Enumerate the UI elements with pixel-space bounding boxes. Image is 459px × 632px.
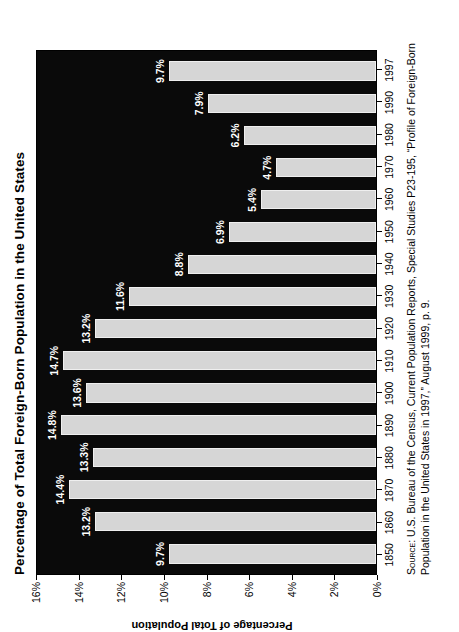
y-axis-tick-label: 10%: [158, 575, 170, 603]
bar[interactable]: [229, 222, 376, 241]
bar-slot[interactable]: 13.2%: [37, 313, 376, 345]
bar-slot[interactable]: 6.9%: [37, 216, 376, 248]
bar-slot[interactable]: 4.7%: [37, 152, 376, 184]
bar-slot[interactable]: 13.6%: [37, 377, 376, 409]
bar-value-label: 9.7%: [154, 542, 166, 566]
bar[interactable]: [208, 94, 376, 113]
bar[interactable]: [95, 319, 376, 338]
y-axis: Percentage of Total Population 0%2%4%6%8…: [36, 575, 377, 622]
bar-slot[interactable]: 6.2%: [37, 119, 376, 151]
bar-slot[interactable]: 14.8%: [37, 409, 376, 441]
bar-value-label: 13.2%: [80, 314, 92, 344]
bar-slot[interactable]: 13.3%: [37, 441, 376, 473]
x-axis-tick-label: 1930: [377, 280, 397, 312]
bar[interactable]: [276, 158, 376, 177]
x-axis-tick-label: 1870: [377, 474, 397, 506]
bar-slot[interactable]: 13.2%: [37, 506, 376, 538]
bar-value-label: 7.9%: [193, 91, 205, 115]
bar[interactable]: [86, 383, 376, 402]
chart-title: Percentage of Total Foreign-Born Populat…: [12, 15, 27, 575]
x-axis-tick-label: 1980: [377, 119, 397, 151]
x-axis-tick-label: 1920: [377, 313, 397, 345]
x-axis-tick-label: 1850: [377, 539, 397, 571]
bar[interactable]: [95, 512, 376, 531]
bar-value-label: 9.7%: [154, 59, 166, 83]
y-axis-tick-label: 16%: [30, 575, 42, 603]
bar-value-label: 6.2%: [229, 124, 241, 148]
x-axis-tick-label: 1900: [377, 377, 397, 409]
bar-value-label: 14.8%: [46, 410, 58, 440]
bar-value-label: 6.9%: [214, 220, 226, 244]
plot-area: 9.7%13.2%14.4%13.3%14.8%13.6%14.7%13.2%1…: [36, 50, 377, 575]
y-axis-tick: 14%: [73, 575, 85, 622]
source-note: Source: U.S. Bureau of the Census, Curre…: [404, 30, 432, 575]
y-axis-tick: 2%: [328, 575, 340, 622]
bar-value-label: 4.7%: [261, 156, 273, 180]
bar[interactable]: [129, 287, 376, 306]
x-axis-tick-label: 1860: [377, 506, 397, 538]
bar-value-label: 14.7%: [48, 346, 60, 376]
y-axis-tick: 6%: [243, 575, 255, 622]
bar-value-label: 13.2%: [80, 507, 92, 537]
bar-value-label: 14.4%: [54, 475, 66, 505]
x-axis-tick-label: 1970: [377, 151, 397, 183]
bar[interactable]: [244, 126, 376, 145]
bar[interactable]: [69, 480, 376, 499]
source-text: U.S. Bureau of the Census, Current Popul…: [405, 43, 431, 575]
bar-value-label: 5.4%: [246, 188, 258, 212]
bar-slot[interactable]: 5.4%: [37, 184, 376, 216]
x-axis-tick-label: 1880: [377, 442, 397, 474]
y-axis-tick: 0%: [371, 575, 383, 622]
bar-slot[interactable]: 11.6%: [37, 280, 376, 312]
bar[interactable]: [63, 351, 376, 370]
x-axis-tick-label: 1940: [377, 248, 397, 280]
y-axis-tick-label: 14%: [73, 575, 85, 603]
bar-slot[interactable]: 14.7%: [37, 345, 376, 377]
bar[interactable]: [261, 190, 376, 209]
bar[interactable]: [61, 416, 376, 435]
y-axis-tick-label: 4%: [286, 575, 298, 597]
bar-value-label: 13.6%: [71, 378, 83, 408]
y-axis-tick-label: 0%: [371, 575, 383, 597]
y-axis-tick-label: 2%: [328, 575, 340, 597]
bar-slot[interactable]: 8.8%: [37, 248, 376, 280]
bar-value-label: 8.8%: [173, 252, 185, 276]
bar[interactable]: [169, 544, 376, 563]
x-axis-tick-label: 1997: [377, 54, 397, 86]
x-axis-tick-label: 1960: [377, 183, 397, 215]
x-axis-tick-label: 1950: [377, 216, 397, 248]
bar-series: 9.7%13.2%14.4%13.3%14.8%13.6%14.7%13.2%1…: [37, 51, 376, 574]
bar-slot[interactable]: 14.4%: [37, 473, 376, 505]
x-axis: 1850186018701880189019001910192019301940…: [377, 50, 397, 575]
bar[interactable]: [188, 255, 376, 274]
x-axis-tick-label: 1990: [377, 86, 397, 118]
bar-value-label: 11.6%: [114, 282, 126, 311]
bar-slot[interactable]: 7.9%: [37, 87, 376, 119]
bar-slot[interactable]: 9.7%: [37, 538, 376, 570]
y-axis-tick-label: 12%: [115, 575, 127, 603]
bar-slot[interactable]: 9.7%: [37, 55, 376, 87]
y-axis-tick-label: 8%: [201, 575, 213, 597]
bar[interactable]: [93, 448, 376, 467]
x-axis-tick-label: 1890: [377, 409, 397, 441]
y-axis-tick: 4%: [286, 575, 298, 622]
x-axis-tick-label: 1910: [377, 345, 397, 377]
bar-value-label: 13.3%: [78, 442, 90, 472]
y-axis-tick: 16%: [30, 575, 42, 622]
y-axis-tick: 12%: [115, 575, 127, 622]
bar[interactable]: [169, 61, 376, 80]
y-axis-tick: 10%: [158, 575, 170, 622]
y-axis-tick: 8%: [201, 575, 213, 622]
y-axis-tick-label: 6%: [243, 575, 255, 597]
source-keyword: Source:: [405, 540, 417, 575]
